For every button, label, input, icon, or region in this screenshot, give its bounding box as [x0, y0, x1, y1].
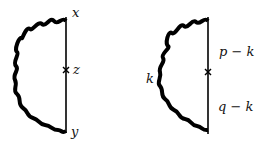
label-x: x [72, 6, 79, 19]
label-y: y [71, 125, 78, 138]
label-k: k [146, 72, 154, 85]
label-q-minus-k: q − k [218, 100, 253, 113]
label-p-minus-k: p − k [219, 45, 254, 58]
photon-wavy-line-left [14, 20, 66, 133]
diagram-right [159, 17, 211, 134]
photon-wavy-line-right [159, 20, 208, 131]
diagram-left [14, 17, 69, 133]
feynman-diagrams-canvas [0, 0, 255, 149]
label-z: z [73, 63, 80, 76]
